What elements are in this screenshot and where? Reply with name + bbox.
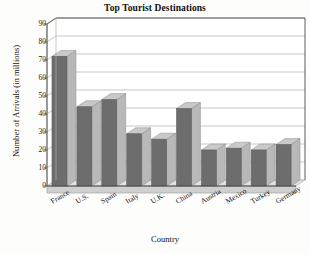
x-tick-label: Spain	[99, 189, 118, 205]
x-tick-label: France	[49, 188, 71, 206]
x-tick-label: Austria	[199, 187, 222, 206]
x-tick-label: Turkey	[249, 187, 272, 206]
x-tick-label: China	[174, 189, 194, 206]
x-tick-label: Italy	[124, 191, 140, 206]
x-tick-label: U.S.	[74, 191, 90, 205]
x-axis-tick-labels: FranceU.S.SpainItalyU.K.ChinaAustriaMexi…	[0, 0, 310, 254]
x-tick-label: Mexico	[224, 186, 248, 205]
x-tick-label: Germany	[274, 184, 302, 206]
x-tick-label: U.K.	[149, 191, 166, 206]
chart-container: Top Tourist Destinations Number of Arriv…	[0, 0, 310, 254]
